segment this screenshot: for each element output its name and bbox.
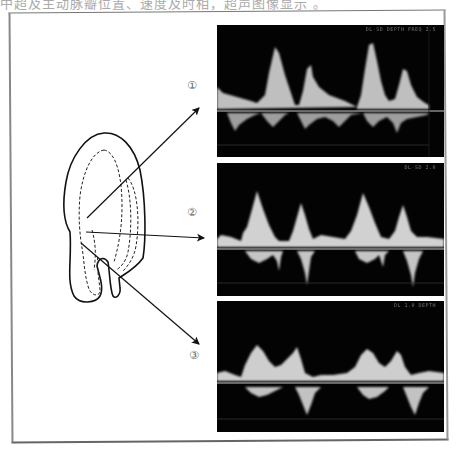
right-ventricle-outline [122, 178, 138, 272]
label-3: ③ [189, 349, 199, 362]
outflow-outline [116, 180, 131, 270]
arrow-1 [87, 108, 199, 218]
panel-3-spectrum [217, 301, 444, 432]
septum-outline [104, 150, 122, 262]
panel-2-spectrum [217, 163, 444, 296]
doppler-panel-3: DL 1.0 DEPTH [217, 301, 444, 432]
doppler-panel-2: DL-SD 2.0 [217, 163, 444, 296]
doppler-panel-1: DL-SD DEPTH FREQ 2.5 [217, 25, 444, 157]
label-1: ① [187, 79, 197, 92]
aortic-root-outline [92, 230, 95, 270]
left-ventricle-outline [79, 150, 104, 295]
heart-outline [64, 133, 145, 302]
panel-1-spectrum [217, 25, 444, 157]
label-2: ② [187, 206, 197, 219]
